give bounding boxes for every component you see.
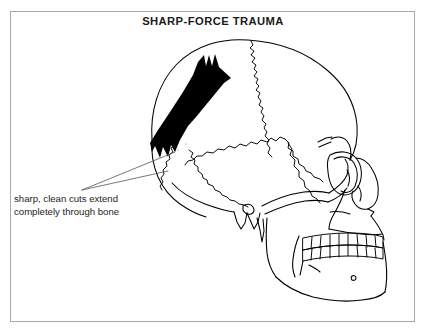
lower-cranium-group [172, 183, 264, 242]
skull-illustration [0, 0, 426, 334]
caption-line-1: sharp, clean cuts extend [14, 193, 174, 206]
mandible-alveolar-upper [300, 261, 303, 275]
upper-tooth-divider-6 [357, 234, 358, 246]
zygomatic-arch-lower [265, 200, 328, 214]
upper-tooth-divider-8 [375, 236, 376, 247]
maxilla-outline [329, 190, 345, 229]
mandible-coronoid-ramus-anterior [293, 236, 299, 277]
lower-tooth-divider-8 [375, 248, 376, 258]
lower-tooth-divider-7 [366, 247, 367, 257]
nasal-spine [368, 209, 374, 216]
mandible-group [266, 218, 386, 301]
sharp-force-wound [150, 54, 231, 158]
figure-root: SHARP-FORCE TRAUMA [0, 0, 426, 334]
annotation-caption: sharp, clean cuts extend completely thro… [14, 193, 174, 218]
maxilla-alveolar-border [329, 229, 382, 235]
frontal-process-detail [318, 137, 332, 142]
parietal-temporal-suture [285, 139, 323, 182]
leader-line-lower [82, 171, 168, 190]
mental-foramen [351, 276, 356, 281]
squamosal-suture [185, 137, 285, 165]
nasal-lateral-edge [358, 186, 361, 201]
lower-tooth-divider-6 [357, 246, 358, 257]
mandible-oblique-line [309, 265, 320, 272]
mastoid-process [234, 212, 247, 229]
temporal-line-suture [189, 150, 248, 207]
occipital-base-outline [172, 183, 234, 212]
upper-tooth-divider-1 [311, 237, 312, 249]
frontal-margin-group [318, 137, 351, 160]
mandible-anterior-border [383, 242, 387, 292]
lower-tooth-divider-1 [311, 249, 312, 260]
lower-teeth-row-outline [303, 245, 383, 261]
sharp-force-wound-group [150, 54, 231, 158]
zygomatic-body [329, 159, 348, 193]
upper-tooth-divider-2 [320, 236, 321, 248]
frontal-process-detail-2 [319, 142, 331, 147]
zygomatic-arch-upper [262, 191, 329, 206]
lower-dentition-group [303, 245, 383, 261]
mandible-body-outline [276, 277, 385, 301]
styloid-process [257, 218, 264, 242]
maxilla-zygomatic-process [330, 212, 350, 214]
caption-line-2: completely through bone [14, 206, 174, 219]
mandible-ramus-posterior [266, 218, 276, 277]
